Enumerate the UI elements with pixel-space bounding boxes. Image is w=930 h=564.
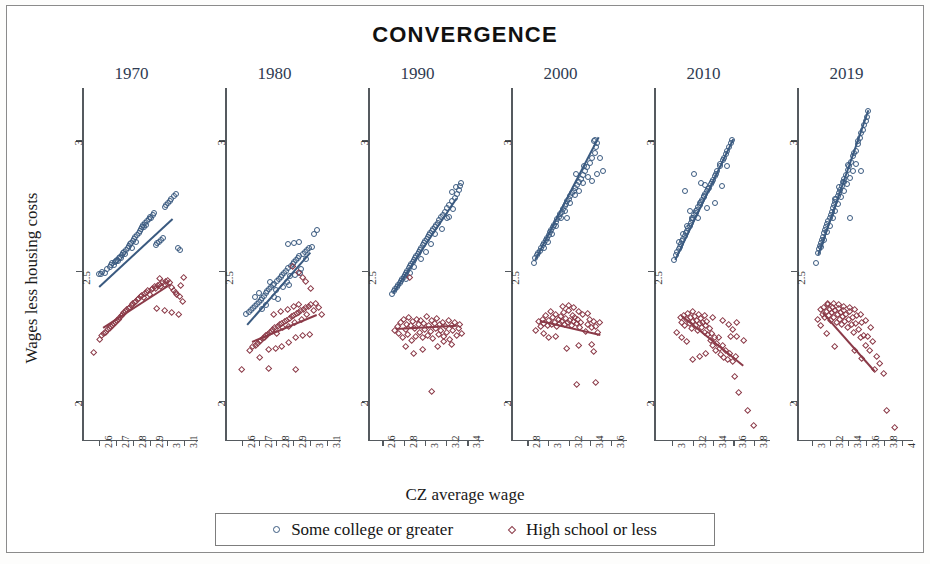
data-point [153, 305, 161, 313]
y-tick-label: 3 [787, 140, 799, 146]
x-tick-label: 3.4 [471, 436, 482, 449]
data-point [237, 365, 245, 373]
data-point [588, 341, 596, 349]
x-tick [382, 441, 383, 446]
figure-root: CONVERGENCE Wages less housing costs CZ … [0, 0, 930, 564]
data-point [446, 214, 452, 220]
data-point [704, 205, 710, 211]
fit-line [817, 109, 869, 254]
x-tick [733, 441, 734, 446]
chart-legend: Some college or greaterHigh school or le… [215, 513, 715, 546]
data-point [418, 256, 424, 262]
x-tick-label: 2.9 [154, 436, 165, 449]
x-tick [693, 441, 694, 446]
x-tick-label: 3 [314, 443, 325, 448]
x-tick-label: 3 [171, 443, 182, 448]
y-tick-label: 2.5 [509, 271, 521, 285]
x-tick [242, 441, 243, 446]
data-point [880, 369, 888, 377]
data-point [822, 329, 830, 337]
x-tick [527, 441, 528, 446]
data-point [161, 307, 169, 315]
x-tick-label: 3 [552, 443, 563, 448]
data-point [177, 282, 185, 290]
data-point [552, 333, 560, 341]
data-point [433, 343, 441, 351]
x-tick-label: 2.6 [103, 436, 114, 449]
x-tick-label: 3.4 [594, 436, 605, 449]
data-point [575, 342, 583, 350]
data-point [589, 155, 595, 161]
x-tick-label: 2.6 [386, 436, 397, 449]
x-tick-label: 4 [906, 443, 917, 448]
panel-1970: 197022.532.62.72.82.933.1 [60, 64, 203, 454]
panel-title-2000: 2000 [489, 64, 632, 84]
data-point [869, 338, 877, 346]
y-tick-label: 2.5 [795, 271, 807, 285]
data-point [592, 379, 600, 387]
data-point [719, 183, 725, 189]
data-point [563, 345, 571, 353]
data-point [831, 343, 839, 351]
fit-line [534, 137, 599, 260]
data-point [278, 343, 286, 351]
y-tick-label: 2 [644, 401, 656, 407]
legend-label: Some college or greater [291, 520, 453, 540]
data-point [448, 341, 456, 349]
y-tick-label: 2.5 [366, 271, 378, 285]
y-tick-label: 3 [215, 140, 227, 146]
x-tick-label: 2.6 [246, 436, 257, 449]
panel-title-1970: 1970 [60, 64, 203, 84]
data-point [594, 171, 600, 177]
data-point [735, 389, 743, 397]
panel-grid: 197022.532.62.72.82.933.1198022.532.62.7… [60, 64, 920, 454]
x-tick [812, 441, 813, 446]
data-point [733, 319, 741, 327]
x-tick [310, 441, 311, 446]
x-tick [293, 441, 294, 446]
legend-diamond-icon [508, 525, 516, 533]
x-axis-label: CZ average wage [0, 485, 930, 505]
data-point [572, 192, 578, 198]
legend-item[interactable]: High school or less [509, 520, 657, 540]
y-tick-label: 2 [787, 401, 799, 407]
legend-item[interactable]: Some college or greater [273, 520, 453, 540]
x-tick-label: 3.2 [697, 436, 708, 449]
x-tick [327, 441, 328, 446]
data-point [688, 356, 696, 364]
panel-title-2019: 2019 [775, 64, 918, 84]
data-point [419, 346, 427, 354]
data-point [256, 290, 262, 296]
data-point [160, 235, 166, 241]
data-point [180, 274, 188, 282]
x-tick-label: 2.7 [263, 436, 274, 449]
data-point [600, 168, 606, 174]
x-tick-label: 2.8 [531, 436, 542, 449]
data-point [168, 309, 176, 317]
data-point [402, 343, 410, 351]
data-point [558, 215, 564, 221]
data-point [177, 247, 183, 253]
data-point [285, 241, 291, 247]
data-point [567, 200, 573, 206]
y-tick-label: 2.5 [223, 271, 235, 285]
x-tick [866, 441, 867, 446]
data-point [850, 168, 856, 174]
data-point [712, 200, 718, 206]
x-tick [99, 441, 100, 446]
data-point [687, 208, 693, 214]
data-point [866, 347, 874, 355]
data-point [590, 348, 598, 356]
x-tick [446, 441, 447, 446]
data-point [265, 365, 273, 373]
data-point [439, 226, 445, 232]
data-point [702, 182, 708, 188]
data-point [573, 381, 581, 389]
data-point [858, 168, 864, 174]
x-tick [672, 441, 673, 446]
legend-circle-icon [273, 526, 280, 533]
x-tick [276, 441, 277, 446]
x-tick-label: 3.2 [450, 436, 461, 449]
x-tick [116, 441, 117, 446]
y-tick-label: 3 [72, 140, 84, 146]
